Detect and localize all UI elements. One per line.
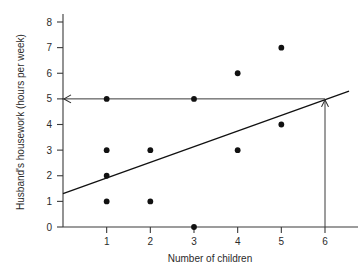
data-point bbox=[147, 147, 153, 153]
data-point bbox=[278, 45, 284, 51]
y-tick-label: 4 bbox=[46, 119, 52, 130]
x-tick-label: 6 bbox=[322, 236, 328, 247]
data-point bbox=[191, 96, 197, 102]
x-tick-label: 4 bbox=[235, 236, 241, 247]
x-axis-title: Number of children bbox=[168, 253, 252, 264]
y-tick-label: 6 bbox=[46, 68, 52, 79]
x-tick-label: 5 bbox=[279, 236, 285, 247]
data-point bbox=[235, 70, 241, 76]
data-point bbox=[104, 147, 110, 153]
y-axis-ticks: 012345678 bbox=[46, 17, 63, 233]
y-tick-label: 8 bbox=[46, 17, 52, 28]
y-tick-label: 0 bbox=[46, 222, 52, 233]
axis-group bbox=[63, 14, 358, 227]
data-point bbox=[104, 96, 110, 102]
x-axis-ticks: 123456 bbox=[104, 227, 328, 247]
data-points bbox=[104, 45, 284, 230]
x-tick-label: 3 bbox=[191, 236, 197, 247]
data-point bbox=[104, 198, 110, 204]
prediction-guide-arrows bbox=[62, 95, 329, 227]
scatter-plot-figure: 012345678 123456 Number of children Husb… bbox=[0, 0, 364, 279]
x-tick-label: 1 bbox=[104, 236, 110, 247]
y-tick-label: 7 bbox=[46, 42, 52, 53]
data-point bbox=[147, 198, 153, 204]
data-point bbox=[235, 147, 241, 153]
data-point bbox=[191, 224, 197, 230]
x-tick-label: 2 bbox=[148, 236, 154, 247]
data-point bbox=[278, 122, 284, 128]
y-tick-label: 3 bbox=[46, 145, 52, 156]
plot-canvas: 012345678 123456 Number of children Husb… bbox=[0, 0, 364, 279]
y-axis-title: Husband's housework (hours per week) bbox=[15, 34, 26, 210]
y-tick-label: 2 bbox=[46, 170, 52, 181]
y-tick-label: 1 bbox=[46, 196, 52, 207]
data-point bbox=[104, 173, 110, 179]
y-tick-label: 5 bbox=[46, 93, 52, 104]
